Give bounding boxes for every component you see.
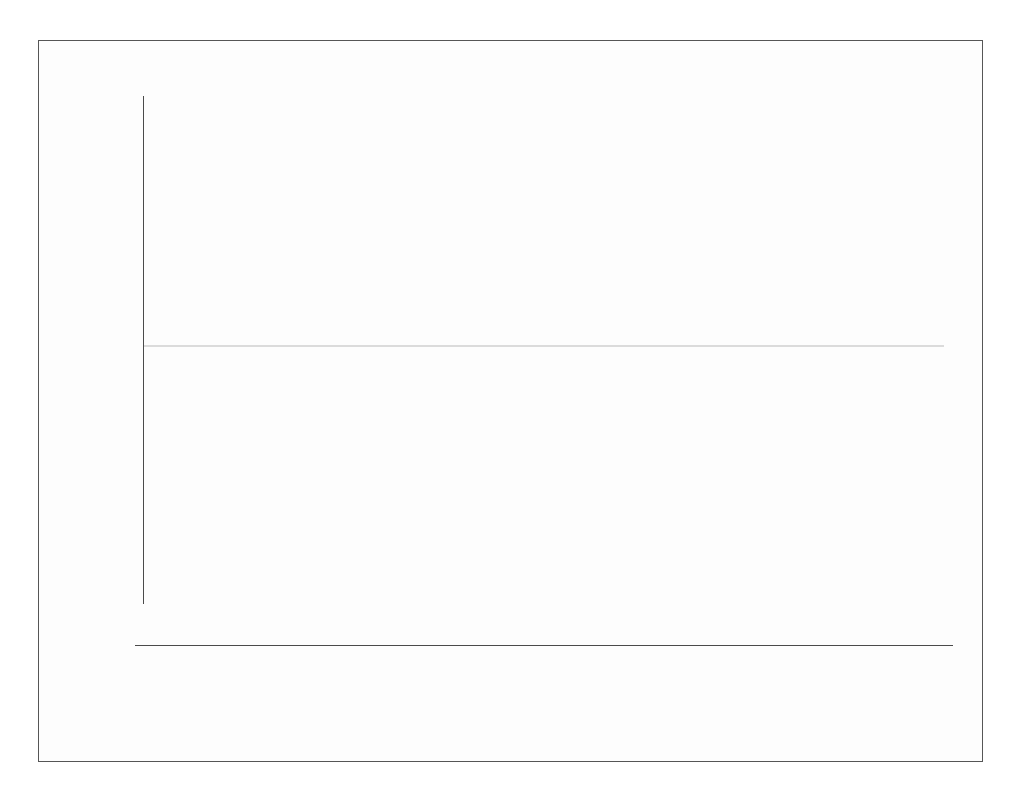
- plot-area: [144, 104, 944, 588]
- x-axis-line: [135, 645, 953, 646]
- y-axis-title-container: [40, 0, 80, 640]
- acf-chart-page: [0, 0, 1012, 797]
- acf-plot-svg: [144, 104, 944, 588]
